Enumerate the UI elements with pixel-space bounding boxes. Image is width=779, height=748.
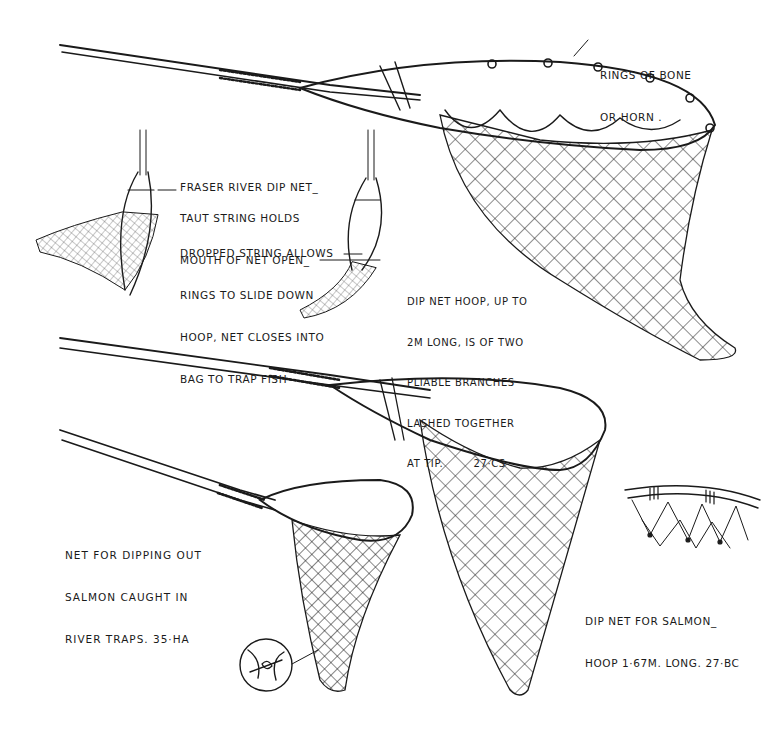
label-line: DIP NET HOOP, UP TO (407, 295, 528, 309)
label-line: DROPPED STRING ALLOWS (180, 246, 334, 260)
label-line: AT TIP. 27·CS (407, 457, 528, 471)
label-line: HOOP, NET CLOSES INTO (180, 330, 334, 344)
hoop-lashing-detail-figure (625, 486, 760, 548)
label-salmon-net: DIP NET FOR SALMON_ HOOP 1·67m. LONG. 27… (585, 586, 739, 684)
label-hoop-description: DIP NET HOOP, UP TO 2m LONG, IS OF TWO P… (407, 268, 528, 484)
label-line: PLIABLE BRANCHES (407, 376, 528, 390)
label-line: OR HORN . (600, 110, 692, 124)
label-line: NET FOR DIPPING OUT (65, 548, 202, 562)
label-line: SALMON CAUGHT IN (65, 590, 202, 604)
label-line: 2m LONG, IS OF TWO (407, 336, 528, 350)
label-line: RINGS TO SLIDE DOWN (180, 288, 334, 302)
label-line: RIVER TRAPS. 35·HA (65, 632, 202, 646)
open-net-figure (36, 130, 158, 295)
label-rings-of-bone: RINGS OF BONE OR HORN . (600, 40, 692, 138)
label-line: DIP NET FOR SALMON_ (585, 614, 739, 628)
knot-detail-figure (240, 639, 318, 691)
label-line: HOOP 1·67m. LONG. 27·BC (585, 656, 739, 670)
label-line: LASHED TOGETHER (407, 417, 528, 431)
label-line: RINGS OF BONE (600, 68, 692, 82)
label-line: BAG TO TRAP FISH (180, 372, 334, 386)
label-trap-net: NET FOR DIPPING OUT SALMON CAUGHT IN RIV… (65, 520, 202, 660)
label-dropped-string: DROPPED STRING ALLOWS RINGS TO SLIDE DOW… (180, 218, 334, 400)
